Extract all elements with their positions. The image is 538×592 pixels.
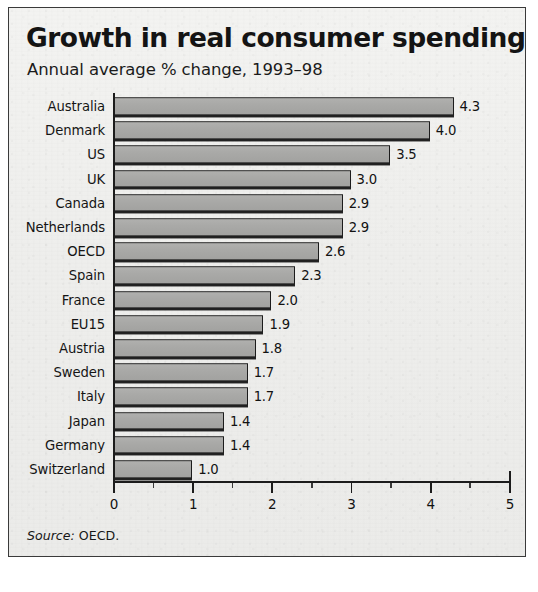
bar-row: Switzerland1.0 (9, 457, 526, 481)
category-label: EU15 (71, 316, 105, 331)
bar (113, 388, 248, 406)
x-axis-major-tick (430, 483, 432, 493)
bar-row: Denmark4.0 (9, 118, 526, 142)
category-label: Spain (69, 268, 105, 283)
x-axis-major-tick (192, 483, 194, 493)
bar-row: France2.0 (9, 288, 526, 312)
bar-value-label: 1.0 (198, 462, 218, 477)
bar-value-label: 1.7 (254, 389, 274, 404)
category-label: UK (87, 171, 105, 186)
bar-row: Italy1.7 (9, 384, 526, 408)
bar-value-label: 2.9 (349, 195, 369, 210)
bar (113, 243, 319, 261)
category-label: Netherlands (26, 220, 105, 235)
x-axis-major-tick (509, 483, 511, 493)
category-label: Switzerland (29, 462, 105, 477)
source-label: Source: (27, 528, 75, 543)
x-axis-major-tick (271, 483, 273, 493)
x-axis-minor-tick (153, 483, 155, 488)
category-label: Japan (69, 413, 105, 428)
x-axis-major-tick (351, 483, 353, 493)
category-label: Italy (77, 389, 105, 404)
bar-value-label: 1.4 (230, 413, 250, 428)
bar (113, 146, 390, 164)
bar (113, 412, 224, 430)
x-axis-right-cap (509, 471, 511, 483)
bar-value-label: 1.9 (269, 316, 289, 331)
x-axis-major-tick (113, 483, 115, 493)
bar (113, 315, 263, 333)
bar-row: UK3.0 (9, 167, 526, 191)
x-axis-tick-label: 4 (427, 496, 436, 512)
category-label: France (62, 292, 105, 307)
page-root: Growth in real consumer spending Annual … (0, 0, 538, 592)
bar-row: Australia4.3 (9, 94, 526, 118)
bar (113, 267, 295, 285)
category-label: OECD (67, 244, 105, 259)
bar (113, 218, 343, 236)
bar-value-label: 1.8 (262, 341, 282, 356)
bar-row: Netherlands2.9 (9, 215, 526, 239)
category-label: Denmark (45, 123, 105, 138)
x-axis-tick-label: 3 (347, 496, 356, 512)
bar-value-label: 1.4 (230, 437, 250, 452)
bar (113, 170, 351, 188)
category-label: US (87, 147, 105, 162)
bar-row: EU151.9 (9, 312, 526, 336)
x-axis-tick-label: 5 (506, 496, 515, 512)
bar-row: Japan1.4 (9, 409, 526, 433)
x-axis-minor-tick (311, 483, 313, 488)
category-label: Germany (45, 437, 105, 452)
x-axis-minor-tick (390, 483, 392, 488)
x-axis-minor-tick (232, 483, 234, 488)
x-axis-tick-label: 1 (189, 496, 198, 512)
bar-row: US3.5 (9, 142, 526, 166)
bar-value-label: 1.7 (254, 365, 274, 380)
x-axis-minor-tick (469, 483, 471, 488)
bar-value-label: 4.3 (460, 99, 480, 114)
source-note: Source: OECD. (27, 528, 119, 543)
bar-value-label: 2.6 (325, 244, 345, 259)
y-axis-line (113, 93, 115, 483)
bar-value-label: 4.0 (436, 123, 456, 138)
bar (113, 436, 224, 454)
bar-row: Sweden1.7 (9, 360, 526, 384)
bar (113, 460, 192, 478)
category-label: Canada (55, 195, 105, 210)
bar-value-label: 3.5 (396, 147, 416, 162)
bar-value-label: 2.9 (349, 220, 369, 235)
source-value: OECD. (79, 528, 119, 543)
bar-row: Germany1.4 (9, 433, 526, 457)
bar (113, 291, 271, 309)
bar-row: Spain2.3 (9, 263, 526, 287)
bar (113, 122, 430, 140)
bar-value-label: 2.3 (301, 268, 321, 283)
category-label: Austria (59, 341, 105, 356)
bar-value-label: 3.0 (357, 171, 377, 186)
bar (113, 339, 256, 357)
bar (113, 364, 248, 382)
bar (113, 194, 343, 212)
plot-area: Australia4.3Denmark4.0US3.5UK3.0Canada2.… (9, 8, 526, 557)
category-label: Sweden (53, 365, 105, 380)
bar-row: OECD2.6 (9, 239, 526, 263)
chart-card: Growth in real consumer spending Annual … (8, 7, 526, 557)
bar-row: Austria1.8 (9, 336, 526, 360)
bar (113, 97, 454, 115)
bar-value-label: 2.0 (277, 292, 297, 307)
category-label: Australia (48, 99, 105, 114)
x-axis-tick-label: 2 (268, 496, 277, 512)
x-axis-tick-label: 0 (110, 496, 119, 512)
bar-row: Canada2.9 (9, 191, 526, 215)
